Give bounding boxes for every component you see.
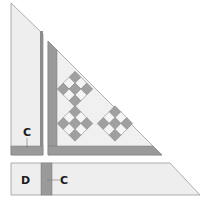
diagram-canvas: C D C <box>0 0 201 202</box>
quilt-diagram: C D C <box>0 0 201 202</box>
triangle-bottom-sashing <box>48 146 162 155</box>
bottom-strip-sashing <box>41 163 52 195</box>
bottom-strip: D C <box>11 163 200 195</box>
label-c-left: C <box>23 126 31 139</box>
label-d: D <box>21 174 30 187</box>
triangle-left-sashing <box>48 41 57 146</box>
setting-triangle <box>48 41 162 155</box>
label-c-bottom: C <box>60 174 68 187</box>
left-strip: C <box>11 3 43 155</box>
